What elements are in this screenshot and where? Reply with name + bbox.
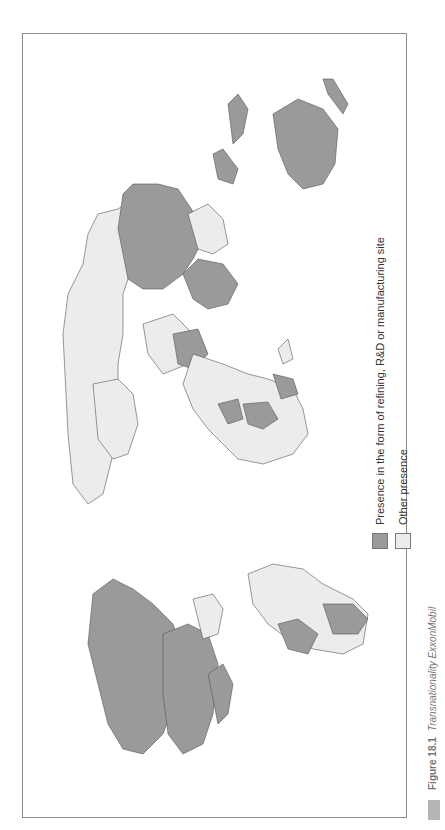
- region-india: [183, 259, 238, 309]
- region-madagascar: [278, 339, 293, 364]
- region-usa: [163, 624, 218, 754]
- region-indonesia: [213, 149, 238, 184]
- legend-swatch-dark: [372, 533, 388, 549]
- legend-swatch-light: [395, 533, 411, 549]
- legend-item-other-presence: Other presence: [395, 449, 411, 549]
- legend-label: Other presence: [397, 449, 409, 525]
- map-legend: Presence in the form of refining, R&D or…: [368, 154, 418, 554]
- caption-marker: [428, 800, 440, 820]
- region-australia: [273, 99, 338, 189]
- world-map: [23, 34, 408, 819]
- legend-label: Presence in the form of refining, R&D or…: [374, 237, 386, 525]
- caption-label: Figure 18.1: [427, 737, 438, 790]
- figure-caption: Figure 18.1Transnationality ExxonMobil: [427, 607, 438, 790]
- map-frame: Presence in the form of refining, R&D or…: [22, 33, 407, 818]
- region-new-zealand: [323, 79, 348, 114]
- region-japan: [228, 94, 248, 144]
- legend-item-major-presence: Presence in the form of refining, R&D or…: [372, 237, 388, 549]
- caption-title: Transnationality ExxonMobil: [427, 607, 438, 731]
